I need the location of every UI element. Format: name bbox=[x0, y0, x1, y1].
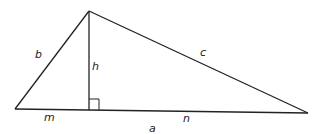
right-angle-marker bbox=[89, 99, 99, 110]
label-c: c bbox=[200, 47, 206, 58]
side-c bbox=[89, 11, 308, 113]
label-h: h bbox=[92, 61, 99, 72]
label-m: m bbox=[44, 112, 55, 123]
side-b bbox=[15, 11, 89, 109]
label-n: n bbox=[183, 113, 190, 124]
label-a: a bbox=[149, 123, 156, 134]
label-b: b bbox=[35, 49, 42, 60]
triangle-diagram: b h c m a n bbox=[0, 0, 326, 134]
side-a-base bbox=[15, 109, 308, 113]
